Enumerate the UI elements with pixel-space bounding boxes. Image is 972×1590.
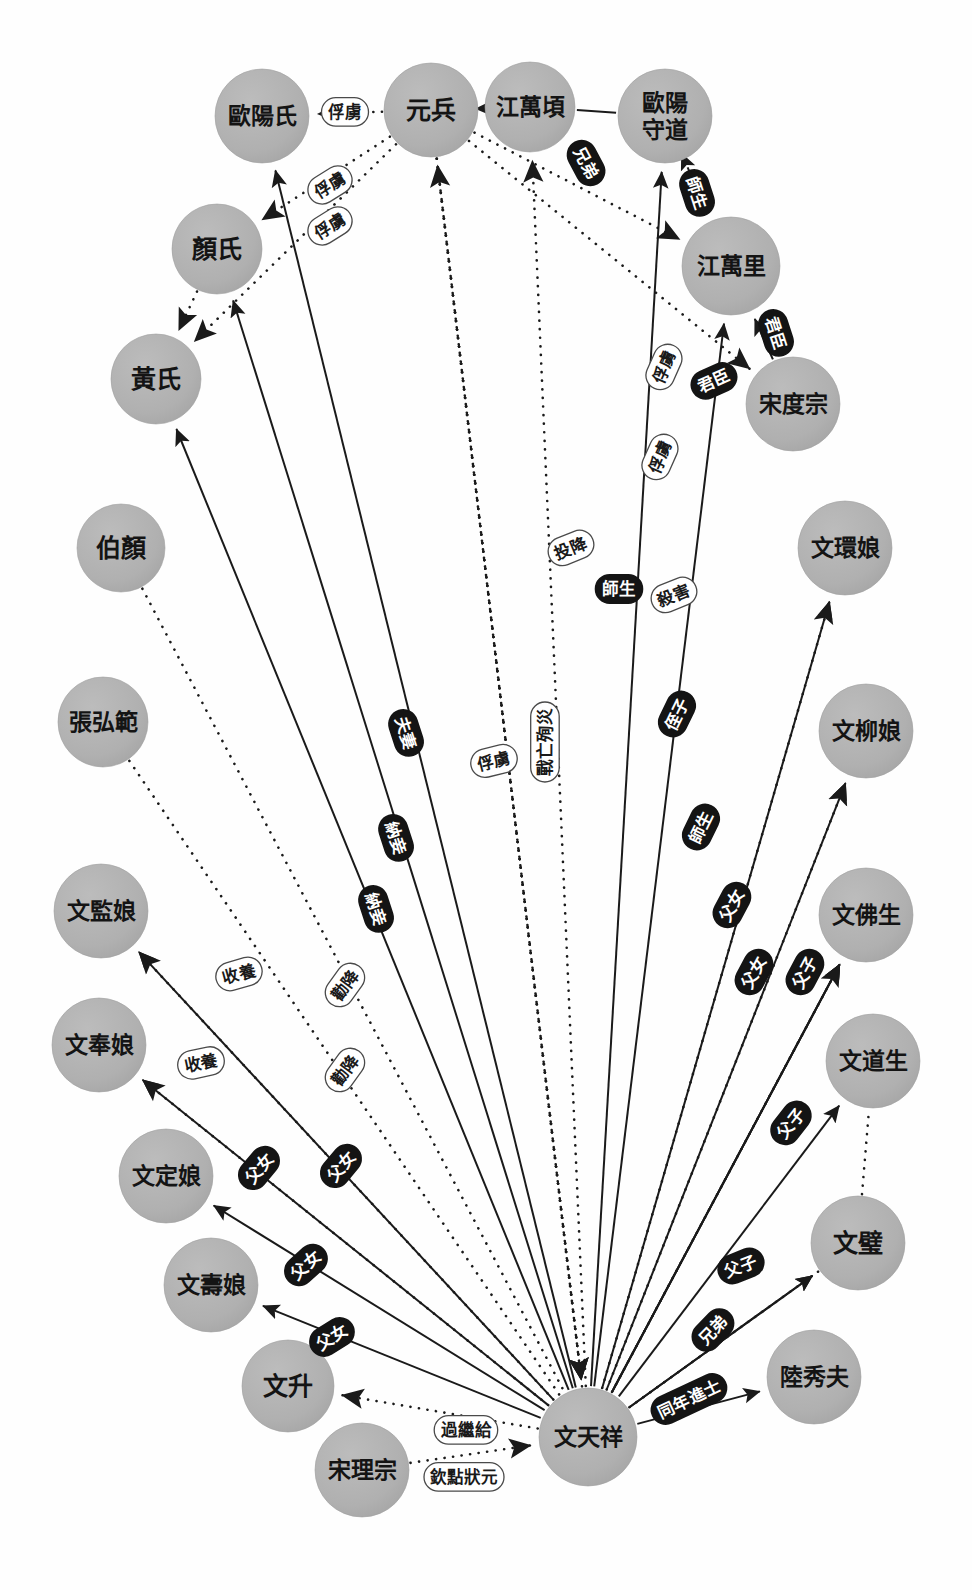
edge-wentianxiang-to-jiangwanli[interactable] — [594, 324, 724, 1387]
node-circle[interactable] — [539, 1388, 637, 1486]
node-circle[interactable] — [819, 868, 913, 962]
node-yanshi[interactable]: 顏氏 — [172, 204, 262, 294]
node-wendaosheng[interactable]: 文道生 — [826, 1014, 920, 1108]
edge-label-e18[interactable]: 戰亡殉災 — [531, 702, 560, 782]
node-wendingniang[interactable]: 文定娘 — [119, 1129, 213, 1223]
edge-label-pill — [320, 958, 371, 1013]
node-circle[interactable] — [811, 1196, 905, 1290]
edge-songlizong-to-wentianxiang[interactable] — [411, 1445, 531, 1463]
node-songlizong[interactable]: 宋理宗 — [315, 1423, 409, 1517]
edge-label-e3[interactable]: 俘虜 — [302, 201, 357, 250]
edge-label-e22[interactable]: 父子 — [714, 1244, 768, 1288]
edge-label-pill — [654, 687, 700, 742]
edge-label-e7[interactable]: 君臣 — [687, 358, 742, 403]
node-wenfosheng[interactable]: 文佛生 — [819, 868, 913, 962]
edge-label-pill — [434, 1416, 498, 1445]
edge-label-pill — [302, 160, 357, 209]
node-circle[interactable] — [172, 204, 262, 294]
edge-label-e14[interactable]: 父女 — [708, 878, 755, 933]
edge-label-e5[interactable]: 師生 — [676, 166, 718, 220]
node-circle[interactable] — [767, 1330, 861, 1424]
edge-label-e19[interactable]: 父女 — [730, 945, 777, 1000]
node-wentianxiang[interactable]: 文天祥 — [539, 1388, 637, 1486]
node-circle[interactable] — [215, 69, 309, 163]
edge-label-pill — [424, 1463, 504, 1492]
node-circle[interactable] — [819, 684, 913, 778]
node-circle[interactable] — [111, 334, 201, 424]
node-circle[interactable] — [798, 501, 892, 595]
edge-label-e34[interactable]: 欽點狀元 — [424, 1463, 504, 1492]
node-circle[interactable] — [119, 1129, 213, 1223]
node-circle[interactable] — [58, 677, 148, 767]
edge-label-e2[interactable]: 俘虜 — [302, 160, 357, 209]
node-zhanghongfan[interactable]: 張弘範 — [58, 677, 148, 767]
node-circle[interactable] — [54, 864, 148, 958]
node-wenjianniang[interactable]: 文監娘 — [54, 864, 148, 958]
edge-yanshi-to-huangshi[interactable] — [179, 292, 197, 331]
node-circle[interactable] — [485, 62, 575, 152]
node-circle[interactable] — [618, 69, 712, 163]
edge-label-e8[interactable]: 俘虜 — [641, 340, 686, 395]
edge-label-pill — [781, 945, 828, 1000]
node-ouyangshoudao[interactable]: 歐陽守道 — [618, 69, 712, 163]
node-luxiufu[interactable]: 陸秀夫 — [767, 1330, 861, 1424]
edge-label-e26[interactable]: 勸降 — [320, 1043, 371, 1098]
edge-wentianxiang-to-ouyangshi[interactable] — [275, 170, 575, 1387]
node-jiangwanli[interactable]: 江萬里 — [682, 217, 780, 315]
edge-label-e6[interactable]: 君臣 — [755, 306, 797, 360]
edge-label-pill — [375, 811, 417, 865]
node-circle[interactable] — [77, 504, 165, 592]
edge-label-pill — [385, 706, 427, 760]
edge-label-e17[interactable]: 俘虜 — [468, 741, 520, 780]
node-yuanbing[interactable]: 元兵 — [384, 63, 478, 157]
node-huangshi[interactable]: 黃氏 — [111, 334, 201, 424]
edge-label-e24[interactable]: 同年進士 — [647, 1369, 732, 1429]
edge-jiangwanqing-to-ouyangshoudao[interactable] — [577, 110, 616, 113]
node-circle[interactable] — [682, 217, 780, 315]
edge-label-e25[interactable]: 勸降 — [320, 958, 371, 1013]
edge-label-pill — [687, 358, 742, 403]
node-circle[interactable] — [746, 357, 840, 451]
node-jiangwanqing[interactable]: 江萬頃 — [485, 62, 575, 152]
edge-label-e20[interactable]: 父子 — [781, 945, 828, 1000]
edge-label-e11[interactable]: 師生 — [596, 575, 643, 604]
edge-label-e21[interactable]: 父子 — [765, 1096, 816, 1151]
edge-label-e38[interactable]: 納妾 — [355, 882, 397, 936]
node-wenbi[interactable]: 文璧 — [811, 1196, 905, 1290]
edge-label-e37[interactable]: 納妾 — [375, 811, 417, 865]
node-circle[interactable] — [384, 63, 478, 157]
relationship-network-svg: 歐陽氏元兵江萬頃歐陽守道顏氏江萬里黃氏宋度宗文環娘伯顏文柳娘張弘範文佛生文監娘文… — [0, 0, 972, 1590]
node-wenshouniang[interactable]: 文壽娘 — [164, 1238, 258, 1332]
edge-wenbi-to-wendaosheng[interactable] — [862, 1110, 869, 1194]
edge-label-e23[interactable]: 兄弟 — [686, 1303, 739, 1357]
node-circle[interactable] — [164, 1238, 258, 1332]
edge-wentianxiang-to-ouyangshoudao[interactable] — [591, 172, 662, 1386]
edge-label-pill — [302, 201, 357, 250]
edge-label-e27[interactable]: 收養 — [212, 954, 265, 994]
edge-label-e10[interactable]: 投降 — [544, 526, 598, 570]
edge-label-e31[interactable]: 父女 — [279, 1239, 333, 1292]
edge-label-e28[interactable]: 收養 — [175, 1044, 227, 1082]
edge-label-e4[interactable]: 兄弟 — [562, 136, 609, 191]
node-wenhuanniang[interactable]: 文環娘 — [798, 501, 892, 595]
edge-label-e33[interactable]: 過繼給 — [434, 1416, 498, 1445]
node-boyan[interactable]: 伯顏 — [77, 504, 165, 592]
edge-label-pill — [355, 882, 397, 936]
edge-label-e29[interactable]: 父女 — [315, 1139, 367, 1193]
node-wenfengniang[interactable]: 文奉娘 — [52, 998, 146, 1092]
edge-label-pill — [279, 1239, 333, 1292]
edge-label-e15[interactable]: 侄子 — [654, 687, 700, 742]
node-circle[interactable] — [52, 998, 146, 1092]
edge-label-pill — [544, 526, 598, 570]
edge-label-pill — [468, 741, 520, 780]
node-ouyangshi[interactable]: 歐陽氏 — [215, 69, 309, 163]
node-circle[interactable] — [315, 1423, 409, 1517]
edge-label-pill — [596, 575, 643, 604]
edge-label-e1[interactable]: 俘虜 — [322, 98, 369, 127]
node-wenliuniang[interactable]: 文柳娘 — [819, 684, 913, 778]
node-songduzong[interactable]: 宋度宗 — [746, 357, 840, 451]
node-circle[interactable] — [826, 1014, 920, 1108]
edge-label-e16[interactable]: 師生 — [678, 800, 724, 855]
edge-label-pill — [322, 98, 369, 127]
edge-label-e13[interactable]: 夫妻 — [385, 706, 427, 760]
